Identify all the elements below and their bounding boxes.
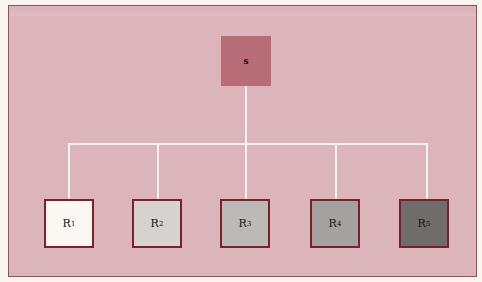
child-node-subscript: 4	[337, 220, 341, 228]
child-connector-4	[335, 143, 337, 199]
root-node-s: s	[221, 36, 271, 86]
diagram-panel: s R1 R2 R3 R4 R5	[8, 5, 477, 277]
child-node-r2: R2	[132, 199, 182, 248]
horizontal-connector-bar	[68, 143, 428, 145]
child-connector-5	[426, 143, 428, 199]
child-node-label: R	[418, 217, 426, 230]
child-connector-2	[157, 143, 159, 199]
child-node-subscript: 2	[159, 220, 163, 228]
root-connector-vertical	[245, 86, 247, 145]
child-node-r1: R1	[44, 199, 94, 248]
child-node-subscript: 5	[426, 220, 430, 228]
child-node-subscript: 3	[247, 220, 251, 228]
child-node-r4: R4	[310, 199, 360, 248]
child-connector-3	[245, 143, 247, 199]
child-node-subscript: 1	[71, 220, 75, 228]
child-node-r3: R3	[220, 199, 270, 248]
child-node-label: R	[239, 217, 247, 230]
child-node-label: R	[151, 217, 159, 230]
child-connector-1	[68, 143, 70, 199]
child-node-r5: R5	[399, 199, 449, 248]
child-node-label: R	[329, 217, 337, 230]
root-node-label: s	[243, 56, 248, 66]
child-node-label: R	[63, 217, 71, 230]
